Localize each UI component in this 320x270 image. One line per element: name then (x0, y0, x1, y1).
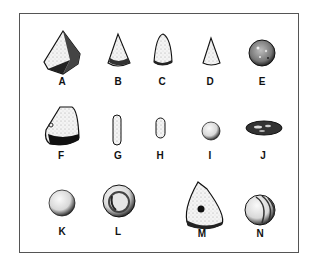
object-l-icon (103, 185, 135, 217)
label-e: E (252, 76, 272, 87)
object-a-icon (44, 31, 80, 74)
object-i-icon (202, 122, 220, 140)
object-j-icon (246, 121, 282, 135)
object-h-icon (156, 118, 165, 138)
label-f: F (51, 150, 71, 161)
label-n: N (250, 228, 270, 239)
label-h: H (150, 150, 170, 161)
object-m-icon (186, 182, 223, 229)
object-e-icon (249, 40, 275, 66)
label-j: J (253, 150, 273, 161)
label-a: A (52, 76, 72, 87)
label-d: D (200, 76, 220, 87)
label-l: L (108, 226, 128, 237)
object-b-icon (108, 34, 130, 66)
label-m: M (192, 228, 212, 239)
object-n-icon (245, 195, 275, 225)
label-k: K (52, 226, 72, 237)
label-b: B (108, 76, 128, 87)
label-g: G (108, 150, 128, 161)
object-c-icon (154, 34, 172, 66)
object-f-icon (46, 107, 80, 145)
label-c: C (152, 76, 172, 87)
object-k-icon (49, 190, 75, 216)
label-i: I (200, 150, 220, 161)
object-g-icon (113, 115, 121, 145)
object-d-icon (203, 38, 220, 65)
